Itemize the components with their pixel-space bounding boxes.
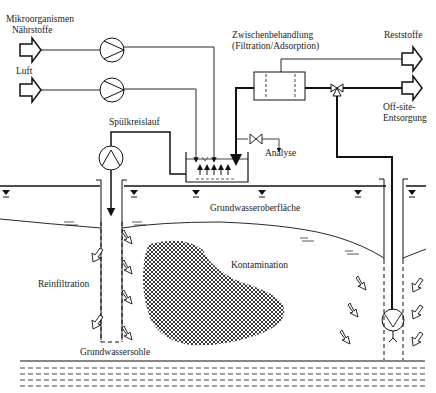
input-arrow-nutrients-icon bbox=[20, 38, 41, 62]
label-offsite-2: Entsorgung bbox=[383, 113, 427, 123]
label-treatment: Zwischenbehandlung bbox=[232, 30, 314, 40]
label-reinfiltration: Reinfiltration bbox=[38, 279, 89, 289]
treatment-unit bbox=[254, 72, 305, 100]
label-aquifer-base: Grundwassersohle bbox=[80, 347, 150, 357]
label-offsite: Off-site- bbox=[383, 102, 416, 112]
label-air: Luft bbox=[16, 66, 33, 76]
extraction-well-pump-icon bbox=[382, 309, 404, 342]
flow-arrows-extraction-icons bbox=[340, 276, 423, 346]
label-microorganisms: Mikroorganismen bbox=[6, 14, 74, 24]
label-residue: Reststoffe bbox=[384, 30, 422, 40]
label-water-table: Grundwasseroberfläche bbox=[210, 203, 300, 213]
pump-recirculation-icon bbox=[99, 146, 123, 170]
flow-arrows-reinfiltration-icons bbox=[92, 230, 132, 340]
label-analysis: Analyse bbox=[265, 148, 296, 158]
aquitard-layer bbox=[20, 368, 425, 386]
water-ripple-marks bbox=[64, 222, 359, 254]
label-treatment-sub: (Filtration/Adsorption) bbox=[232, 41, 319, 52]
water-level-marker-icons bbox=[2, 190, 416, 197]
input-arrow-air-icon bbox=[20, 78, 41, 102]
label-flush-loop: Spülkreislauf bbox=[109, 117, 160, 127]
sampling-valve-icon bbox=[250, 134, 262, 144]
contamination-plume bbox=[143, 241, 284, 346]
label-nutrients: Nährstoffe bbox=[12, 25, 52, 35]
pump-nutrients-icon bbox=[100, 38, 124, 62]
remediation-diagram: Mikroorganismen Nährstoffe Luft Spülkrei… bbox=[0, 0, 436, 393]
three-way-valve-icon bbox=[331, 84, 343, 96]
output-arrow-residue-icon bbox=[402, 47, 422, 71]
output-arrow-offsite-icon bbox=[402, 76, 422, 100]
label-contamination: Kontamination bbox=[231, 260, 288, 270]
pump-air-icon bbox=[100, 78, 124, 102]
infiltration-basin bbox=[186, 152, 248, 182]
